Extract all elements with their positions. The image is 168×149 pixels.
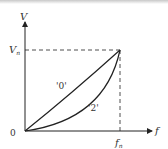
- curve-0: [25, 50, 120, 131]
- x-axis-label: f: [154, 125, 161, 136]
- origin-label: 0: [10, 128, 16, 138]
- fn-label: fn: [114, 137, 123, 149]
- y-axis-label: V: [20, 11, 29, 22]
- v-f-diagram: V f 0 Vn fn '0' '2': [0, 0, 168, 149]
- vn-label: Vn: [9, 44, 20, 56]
- curve-0-label: '0': [56, 81, 67, 91]
- curve-2-label: '2': [88, 103, 99, 113]
